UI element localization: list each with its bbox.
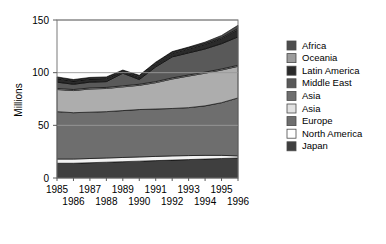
legend-swatch bbox=[287, 104, 296, 113]
chart-figure: 050100150 198519861987198819891990199119… bbox=[0, 0, 386, 244]
y-tick-label: 0 bbox=[43, 173, 49, 184]
y-axis-title: Millions bbox=[13, 83, 24, 116]
legend-label: Asia bbox=[302, 90, 321, 101]
x-tick-label: 1991 bbox=[145, 184, 168, 195]
y-axis-ticks: 050100150 bbox=[32, 15, 57, 184]
y-tick-label: 50 bbox=[38, 120, 50, 131]
x-tick-label: 1992 bbox=[161, 196, 184, 207]
legend-swatch bbox=[287, 91, 296, 100]
x-axis-ticks: 1985198619871988198919901991199219931994… bbox=[46, 178, 250, 207]
x-tick-label: 1990 bbox=[128, 196, 151, 207]
legend-label: North America bbox=[302, 128, 363, 139]
legend-swatch bbox=[287, 142, 296, 151]
plot-area-bands bbox=[57, 25, 238, 178]
legend-swatch bbox=[287, 129, 296, 138]
x-tick-label: 1986 bbox=[62, 196, 85, 207]
x-tick-label: 1994 bbox=[194, 196, 217, 207]
legend-label: Oceania bbox=[302, 52, 338, 63]
legend-swatch bbox=[287, 79, 296, 88]
y-tick-label: 150 bbox=[32, 15, 49, 26]
legend-label: Europe bbox=[302, 115, 333, 126]
stacked-area-chart: 050100150 198519861987198819891990199119… bbox=[0, 0, 386, 244]
legend-swatch bbox=[287, 66, 296, 75]
x-tick-label: 1996 bbox=[227, 196, 250, 207]
chart-legend: AfricaOceaniaLatin AmericaMiddle EastAsi… bbox=[287, 40, 363, 152]
x-tick-label: 1988 bbox=[95, 196, 118, 207]
legend-label: Latin America bbox=[302, 65, 360, 76]
legend-label: Middle East bbox=[302, 77, 352, 88]
legend-label: Africa bbox=[302, 40, 327, 51]
x-tick-label: 1995 bbox=[210, 184, 233, 195]
x-tick-label: 1985 bbox=[46, 184, 69, 195]
x-tick-label: 1987 bbox=[79, 184, 102, 195]
legend-swatch bbox=[287, 41, 296, 50]
x-tick-label: 1993 bbox=[178, 184, 201, 195]
legend-swatch bbox=[287, 117, 296, 126]
legend-label: Asia bbox=[302, 103, 321, 114]
y-tick-label: 100 bbox=[32, 67, 49, 78]
legend-label: Japan bbox=[302, 140, 328, 151]
x-tick-label: 1989 bbox=[112, 184, 135, 195]
legend-swatch bbox=[287, 54, 296, 63]
